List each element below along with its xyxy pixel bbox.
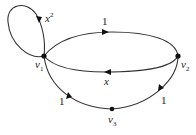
label-v2-v3-edge: 1 [161, 94, 167, 106]
edge-v1-v2 [44, 32, 178, 56]
node-v3 [110, 107, 115, 112]
label-v3-v1-edge: 1 [59, 95, 65, 107]
arrow-loop-icon [36, 16, 42, 23]
node-v2 [175, 53, 180, 58]
arrow-v1-v2-icon [102, 29, 109, 35]
weighted-digraph: x2 1 x 1 1 v1 v2 v3 [0, 0, 196, 135]
node-v1 [41, 53, 46, 58]
arrow-v2-v3-icon [158, 84, 164, 91]
label-loop: x2 [44, 11, 54, 24]
label-v2: v2 [181, 58, 190, 73]
label-bottom-edge: x [103, 75, 109, 87]
label-top-edge: 1 [102, 15, 108, 27]
edge-v1-v1-loop [8, 6, 45, 57]
label-v1: v1 [35, 58, 44, 73]
label-v3: v3 [108, 113, 117, 128]
